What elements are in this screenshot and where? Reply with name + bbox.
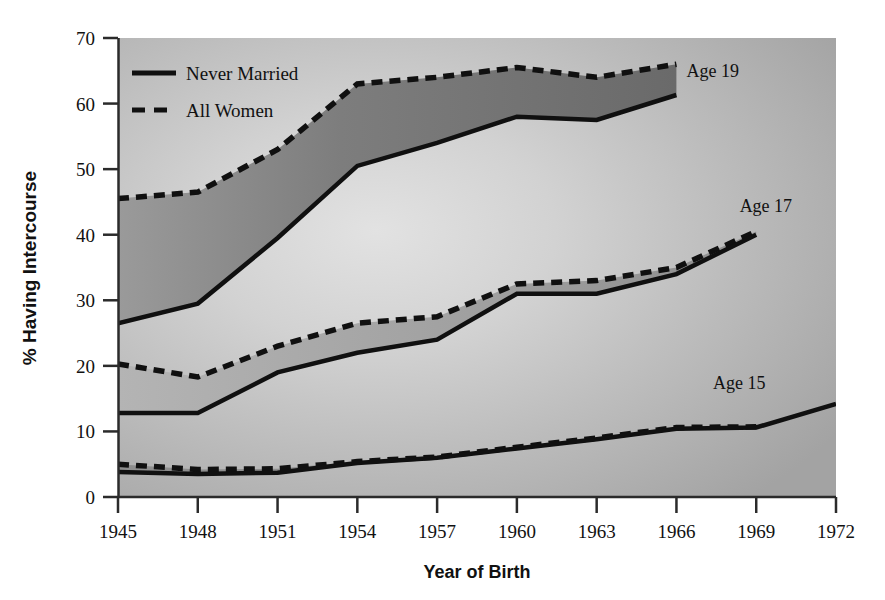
- x-tick-label: 1948: [179, 521, 217, 542]
- y-tick-label: 70: [76, 28, 95, 49]
- x-tick-label: 1957: [418, 521, 456, 542]
- x-tick-label: 1945: [99, 521, 137, 542]
- x-tick-label: 1966: [657, 521, 695, 542]
- annotation-label: Age 19: [686, 61, 739, 81]
- x-tick-label: 1960: [498, 521, 536, 542]
- y-tick-label: 40: [76, 225, 95, 246]
- y-tick-label: 30: [76, 290, 95, 311]
- legend-label-all-women: All Women: [186, 100, 274, 121]
- line-chart: 010203040506070 194519481951195419571960…: [0, 0, 885, 600]
- y-tick-label: 0: [86, 487, 96, 508]
- x-tick-label: 1951: [259, 521, 297, 542]
- annotation-label: Age 15: [713, 373, 766, 393]
- x-axis-title: Year of Birth: [423, 562, 530, 582]
- y-axis-title: % Having Intercourse: [19, 171, 40, 365]
- chart-container: 010203040506070 194519481951195419571960…: [0, 0, 885, 600]
- y-axis-ticks: 010203040506070: [76, 28, 118, 508]
- y-tick-label: 50: [76, 159, 95, 180]
- x-tick-label: 1972: [817, 521, 855, 542]
- x-tick-label: 1963: [578, 521, 616, 542]
- x-axis-ticks: 1945194819511954195719601963196619691972: [99, 497, 855, 542]
- x-tick-label: 1954: [338, 521, 377, 542]
- y-tick-label: 20: [76, 356, 95, 377]
- annotation-label: Age 17: [740, 196, 793, 216]
- y-tick-label: 10: [76, 421, 95, 442]
- legend-label-never-married: Never Married: [186, 63, 299, 84]
- x-tick-label: 1969: [737, 521, 775, 542]
- y-tick-label: 60: [76, 94, 95, 115]
